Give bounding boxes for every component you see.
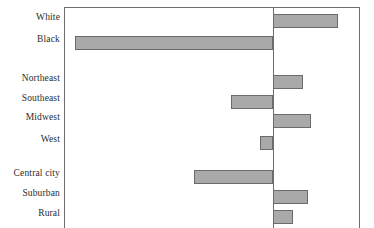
category-label-black: Black <box>37 34 60 45</box>
category-label-northeast: Northeast <box>22 73 60 84</box>
bar-suburban <box>273 190 308 204</box>
category-label-west: West <box>41 134 60 145</box>
bar-central-city <box>194 170 273 184</box>
plot-area <box>64 7 360 228</box>
bar-southeast <box>231 95 273 109</box>
bar-white <box>273 14 338 28</box>
bar-rural <box>273 210 293 224</box>
bar-west <box>260 136 273 150</box>
category-label-rural: Rural <box>38 208 60 219</box>
bar-northeast <box>273 75 303 89</box>
category-label-southeast: Southeast <box>22 93 60 104</box>
bar-black <box>75 36 273 50</box>
category-label-central-city: Central city <box>14 168 60 179</box>
category-label-white: White <box>36 12 60 23</box>
category-label-midwest: Midwest <box>26 112 60 123</box>
bar-midwest <box>273 114 311 128</box>
category-label-suburban: Suburban <box>22 188 60 199</box>
bar-chart: WhiteBlackNortheastSoutheastMidwestWestC… <box>0 0 374 228</box>
